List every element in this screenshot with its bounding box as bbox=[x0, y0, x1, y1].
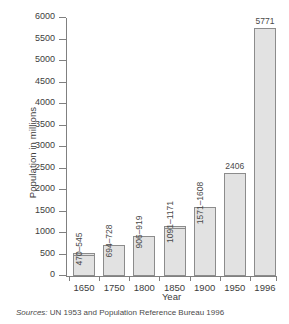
y-tick-label: 500 bbox=[40, 248, 55, 258]
bar[interactable] bbox=[224, 173, 246, 276]
bar-value-label: 1091–1171 bbox=[165, 201, 175, 243]
bar-value-label: 470–545 bbox=[74, 232, 84, 265]
y-tick: 500 bbox=[59, 254, 66, 255]
y-tick: 4500 bbox=[59, 82, 66, 83]
y-tick-label: 3500 bbox=[35, 119, 55, 129]
bar-value-label: 906–919 bbox=[134, 216, 144, 249]
y-tick-label: 5500 bbox=[35, 33, 55, 43]
bar-slot: 5771 bbox=[254, 18, 276, 276]
y-tick: 0 bbox=[59, 275, 66, 276]
y-tick: 3000 bbox=[59, 146, 66, 147]
bar-value-label: 5771 bbox=[255, 16, 274, 26]
x-tick bbox=[99, 277, 100, 281]
y-tick: 1500 bbox=[59, 211, 66, 212]
source-text: UN 1953 and Population Reference Bureau … bbox=[50, 308, 224, 317]
bar-slot: 906–919 bbox=[133, 18, 155, 276]
x-tick bbox=[159, 277, 160, 281]
y-tick: 5500 bbox=[59, 39, 66, 40]
plot-area: 0500100015002000250030003500400045005000… bbox=[66, 18, 277, 277]
y-tick: 5000 bbox=[59, 60, 66, 61]
bar-value-label: 694–728 bbox=[104, 224, 114, 257]
bar-value-label: 2406 bbox=[225, 161, 244, 171]
x-tick bbox=[190, 277, 191, 281]
y-tick-label: 1500 bbox=[35, 205, 55, 215]
x-tick bbox=[250, 277, 251, 281]
source-label: Sources: bbox=[16, 308, 48, 317]
x-tick bbox=[220, 277, 221, 281]
bar-slot: 1091–1171 bbox=[164, 18, 186, 276]
bar-value-label: 1571–1608 bbox=[195, 182, 205, 225]
y-tick: 3500 bbox=[59, 125, 66, 126]
y-tick: 4000 bbox=[59, 103, 66, 104]
y-tick-label: 3000 bbox=[35, 140, 55, 150]
y-tick-label: 1000 bbox=[35, 226, 55, 236]
y-tick: 2500 bbox=[59, 168, 66, 169]
y-tick-label: 2500 bbox=[35, 162, 55, 172]
bar-slot: 694–728 bbox=[103, 18, 125, 276]
bar-slot: 2406 bbox=[224, 18, 246, 276]
x-tick bbox=[129, 277, 130, 281]
x-axis-title: Year bbox=[66, 291, 277, 302]
y-axis-line bbox=[66, 18, 67, 277]
x-tick bbox=[69, 277, 70, 281]
y-tick-label: 4500 bbox=[35, 76, 55, 86]
y-tick: 1000 bbox=[59, 232, 66, 233]
y-tick: 2000 bbox=[59, 189, 66, 190]
source-note: Sources: UN 1953 and Population Referenc… bbox=[16, 308, 224, 317]
x-tick bbox=[276, 277, 277, 281]
y-tick-label: 2000 bbox=[35, 183, 55, 193]
y-tick-label: 6000 bbox=[35, 11, 55, 21]
y-tick: 6000 bbox=[59, 17, 66, 18]
y-tick-label: 4000 bbox=[35, 97, 55, 107]
bar-slot: 1571–1608 bbox=[194, 18, 216, 276]
bar-slot: 470–545 bbox=[73, 18, 95, 276]
bar[interactable] bbox=[254, 28, 276, 276]
y-tick-label: 0 bbox=[50, 269, 55, 279]
y-tick-label: 5000 bbox=[35, 54, 55, 64]
population-bar-chart: Population in millions 05001000150020002… bbox=[0, 0, 289, 324]
x-axis-line bbox=[66, 276, 277, 277]
